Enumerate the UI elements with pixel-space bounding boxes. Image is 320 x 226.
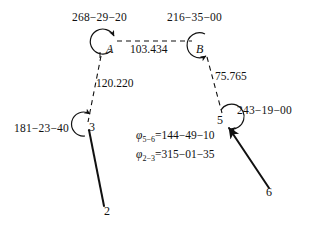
phi-subscript-1: 5−6 xyxy=(142,135,155,144)
edge-3-2 xyxy=(89,130,104,206)
point-label-6: 6 xyxy=(266,186,272,198)
angle-label-3: 181−23−40 xyxy=(14,123,69,135)
traverse-diagram: 268−29−20 216−35−00 A B 103.434 120.220 … xyxy=(0,0,320,226)
station-label-b: B xyxy=(196,43,203,55)
distance-label-a-b: 103.434 xyxy=(130,44,167,56)
point-label-2: 2 xyxy=(104,205,110,217)
point-label-5: 5 xyxy=(217,114,223,126)
distance-label-a-3: 120.220 xyxy=(96,78,133,90)
edge-5-6 xyxy=(229,128,269,188)
station-label-a: A xyxy=(106,43,113,55)
angle-label-b: 216−35−00 xyxy=(167,12,222,24)
phi-value-2: 315−01−35 xyxy=(161,148,214,160)
phi-value-1: 144−49−10 xyxy=(161,129,214,141)
angle-label-5: 243−19−00 xyxy=(237,105,292,117)
point-label-3: 3 xyxy=(89,121,95,133)
phi-subscript-2: 2−3 xyxy=(142,154,155,163)
bearing-formula-5-6: φ5−6=144−49−10 xyxy=(136,130,215,144)
edge-b-5 xyxy=(207,57,222,113)
distance-label-b-5: 75.765 xyxy=(215,71,247,83)
angle-arc-3 xyxy=(72,112,90,136)
angle-label-a: 268−29−20 xyxy=(72,12,127,24)
bearing-formula-2-3: φ2−3=315−01−35 xyxy=(136,149,215,163)
